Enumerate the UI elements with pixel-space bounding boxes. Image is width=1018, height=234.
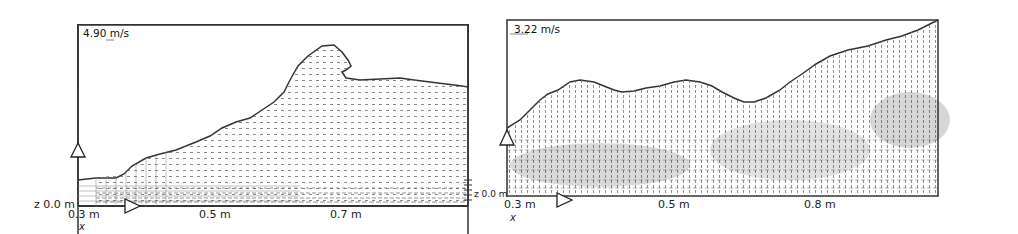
left-x-axis-var: x — [79, 221, 85, 232]
right-x-tick-3: 0.8 m — [804, 198, 836, 211]
right-x-axis-var: x — [510, 212, 516, 223]
left-x-tick-1: 0.3 m — [68, 208, 100, 221]
right-vector-field — [490, 0, 1018, 234]
right-x-tick-2: 0.5 m — [658, 198, 690, 211]
left-swl-triangle-icon — [71, 143, 85, 157]
left-scale-label: 4.90 m/s — [83, 27, 129, 39]
right-scale-label: 3.22 m/s — [514, 23, 560, 35]
right-x-tick-1: 0.3 m — [504, 198, 536, 211]
right-velocity-panel: 3.22 m/s 0.3 m 0.5 m 0.8 m x — [490, 0, 1018, 234]
left-velocity-panel: 4.90 m/s z 0.0 m z 0.0 m 0.3 m 0.5 m 0.7… — [0, 0, 490, 234]
left-x-tick-3: 0.7 m — [330, 208, 362, 221]
left-x-tick-2: 0.5 m — [199, 208, 231, 221]
